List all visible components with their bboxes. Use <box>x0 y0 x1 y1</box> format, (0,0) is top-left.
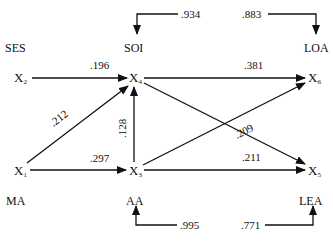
residual-lea: .771 <box>241 220 260 231</box>
residual-arrow-lea <box>265 206 313 225</box>
coef-x1-x3: .297 <box>90 153 109 164</box>
node-x2: X2 <box>14 71 27 89</box>
node-x1: X1 <box>14 164 27 182</box>
residual-soi: .934 <box>181 9 200 20</box>
residual-arrow-soi <box>137 14 178 34</box>
residual-loa: .883 <box>242 9 261 20</box>
residual-arrow-aa <box>136 206 177 225</box>
node-x5: X5 <box>308 164 321 182</box>
construct-label-ses: SES <box>5 42 26 54</box>
coef-x4-x6: .381 <box>244 60 263 71</box>
construct-label-soi: SOI <box>124 42 143 54</box>
coef-x3-x5: .211 <box>242 152 261 163</box>
node-x6: X6 <box>308 71 321 89</box>
residual-arrow-loa <box>268 14 316 34</box>
coef-x2-x4: .196 <box>90 60 109 71</box>
construct-label-ma: MA <box>6 195 25 207</box>
path-diagram: SES SOI LOA MA AA LEA X2 X4 X6 X1 X3 X5 … <box>0 0 333 247</box>
node-x4: X4 <box>129 71 142 89</box>
construct-label-aa: AA <box>126 195 143 207</box>
path-x1-x4 <box>27 86 128 163</box>
node-x3: X3 <box>129 164 142 182</box>
construct-label-loa: LOA <box>304 42 329 54</box>
coef-x3-x4: .128 <box>117 119 128 138</box>
residual-aa: .995 <box>180 220 199 231</box>
construct-label-lea: LEA <box>299 195 322 207</box>
